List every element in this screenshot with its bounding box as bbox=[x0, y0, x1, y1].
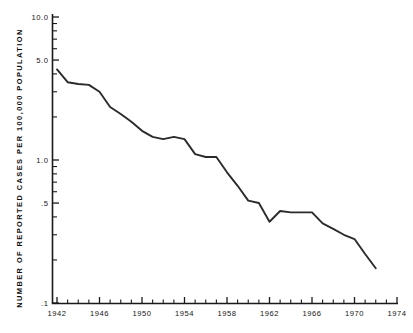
x-axis-tick-label: 1954 bbox=[175, 309, 194, 318]
y-axis-title: NUMBER OF REPORTED CASES PER 100,000 POP… bbox=[15, 28, 24, 308]
chart-figure: NUMBER OF REPORTED CASES PER 100,000 POP… bbox=[0, 0, 413, 333]
x-axis-tick-label: 1942 bbox=[47, 309, 66, 318]
x-axis-tick-label: 1974 bbox=[387, 309, 406, 318]
y-axis-title-group: NUMBER OF REPORTED CASES PER 100,000 POP… bbox=[15, 28, 24, 308]
axis-lines bbox=[53, 14, 399, 304]
x-axis-tick-label: 1970 bbox=[345, 309, 364, 318]
x-axis-tick-labels: 194219461950195419581962196619701974 bbox=[47, 309, 406, 318]
y-axis-tick-label: .5 bbox=[41, 199, 48, 208]
y-axis-tick-label: 5.0 bbox=[36, 56, 48, 65]
x-axis-tick-label: 1958 bbox=[217, 309, 236, 318]
x-axis-tick-label: 1946 bbox=[90, 309, 109, 318]
x-axis-tick-label: 1962 bbox=[260, 309, 279, 318]
data-series-line bbox=[57, 69, 376, 268]
x-axis-ticks bbox=[57, 297, 397, 304]
x-axis-tick-label: 1966 bbox=[302, 309, 321, 318]
x-axis-tick-label: 1950 bbox=[132, 309, 151, 318]
y-axis-tick-label: 1.0 bbox=[36, 156, 48, 165]
line-chart-canvas: NUMBER OF REPORTED CASES PER 100,000 POP… bbox=[0, 0, 413, 333]
y-axis-tick-label: .1 bbox=[41, 299, 48, 308]
y-axis-ticks bbox=[53, 17, 60, 303]
y-axis-tick-label: 10.0 bbox=[32, 13, 49, 22]
y-axis-tick-labels: 10.05.01.0.5.1 bbox=[32, 13, 49, 308]
